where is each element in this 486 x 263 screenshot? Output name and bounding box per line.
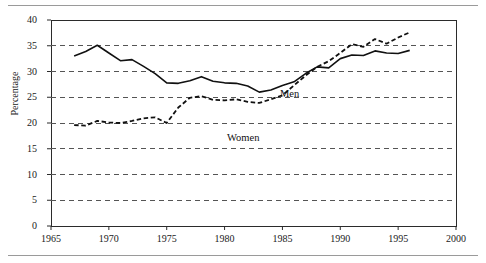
y-tick-label: 30 xyxy=(27,67,37,77)
x-tick-label: 1995 xyxy=(378,233,418,244)
x-tick-label: 1985 xyxy=(262,233,302,244)
x-axis-tick-labels: 19651970197519801985199019952000 xyxy=(51,233,457,247)
x-tick-label: 1990 xyxy=(320,233,360,244)
series-label-men: Men xyxy=(280,88,299,99)
y-tick-label: 0 xyxy=(32,221,37,231)
x-tick-label: 1980 xyxy=(205,233,245,244)
y-tick-label: 40 xyxy=(27,15,37,25)
y-axis-tick-labels: 0510152025303540 xyxy=(0,20,46,227)
y-tick-label: 5 xyxy=(32,195,37,205)
x-tick-label: 1965 xyxy=(31,233,71,244)
x-tick-label: 1975 xyxy=(147,233,187,244)
plot-area: Men Women xyxy=(51,20,457,227)
y-tick-label: 20 xyxy=(27,118,37,128)
figure-bottom-rule xyxy=(8,255,478,256)
y-tick-label: 15 xyxy=(27,144,37,154)
x-tick-label: 2000 xyxy=(436,233,476,244)
y-tick-label: 10 xyxy=(27,170,37,180)
x-axis-ticks xyxy=(51,20,457,227)
series-label-women: Women xyxy=(227,132,259,143)
x-tick-label: 1970 xyxy=(89,233,129,244)
figure-top-rule xyxy=(8,5,478,6)
y-tick-label: 25 xyxy=(27,92,37,102)
y-tick-label: 35 xyxy=(27,41,37,51)
chart-figure: Percentage 0510152025303540 Men Women 19… xyxy=(0,0,486,263)
